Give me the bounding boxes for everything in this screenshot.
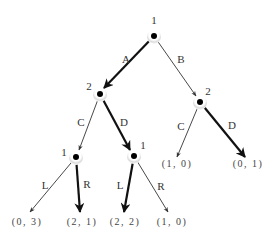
payoff-vector: (2, 1) — [67, 217, 98, 227]
decision-node-icon — [68, 149, 84, 165]
player-label: 2 — [205, 86, 211, 97]
edge-label: C — [77, 117, 84, 128]
edge-label: C — [177, 121, 184, 132]
player-label: 1 — [61, 147, 67, 158]
payoff-vector: (2, 2) — [110, 217, 141, 227]
edge-l-arrow — [124, 156, 134, 212]
decision-node-icon — [146, 28, 162, 44]
edge-label: D — [120, 117, 128, 128]
payoff-vector: (0, 3) — [12, 217, 43, 227]
player-label: 1 — [151, 15, 157, 26]
edge-label: L — [117, 180, 124, 191]
edge-label: A — [122, 54, 130, 65]
edge-label: D — [228, 120, 236, 131]
payoff-vector: (1, 0) — [157, 217, 188, 227]
edge-r-arrow — [76, 157, 80, 212]
edge-l-arrow — [30, 157, 76, 212]
payoff-vector: (0, 1) — [233, 159, 264, 169]
decision-node-icon — [92, 86, 108, 102]
edge-label: R — [83, 179, 90, 190]
edge-d-arrow — [200, 102, 245, 157]
player-label: 2 — [86, 81, 92, 92]
edge-b-arrow — [154, 36, 196, 96]
player-label: 1 — [140, 140, 146, 151]
edge-label: R — [157, 181, 164, 192]
edge-label: B — [177, 54, 184, 65]
payoff-vector: (1, 0) — [162, 159, 193, 169]
edge-label: L — [42, 180, 49, 191]
